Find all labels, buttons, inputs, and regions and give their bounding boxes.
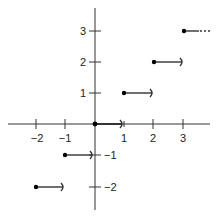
- step-segments: [34, 29, 210, 191]
- y-tick-labels: 3 2 1 −1 −2: [80, 25, 117, 193]
- segment-y-neg2: [34, 183, 63, 191]
- segment-y-0: [93, 120, 122, 128]
- x-label-neg1: −1: [59, 132, 72, 144]
- x-label-neg2: −2: [31, 132, 44, 144]
- step-function-chart: −2 −1 1 2 3 3 2 1 −1 −2: [0, 0, 217, 221]
- segment-y-3: [182, 29, 210, 33]
- x-label-2: 2: [150, 132, 156, 144]
- x-tick-labels: −2 −1 1 2 3: [31, 132, 186, 144]
- y-label-neg1: −1: [104, 149, 117, 161]
- y-label-1: 1: [80, 87, 86, 99]
- segment-y-2: [152, 58, 182, 66]
- y-label-neg2: −2: [104, 181, 117, 193]
- segment-y-neg1: [63, 151, 92, 159]
- x-label-1: 1: [121, 132, 127, 144]
- segment-y-1: [122, 89, 152, 97]
- y-label-3: 3: [80, 25, 86, 37]
- y-label-2: 2: [80, 56, 86, 68]
- x-label-3: 3: [180, 132, 186, 144]
